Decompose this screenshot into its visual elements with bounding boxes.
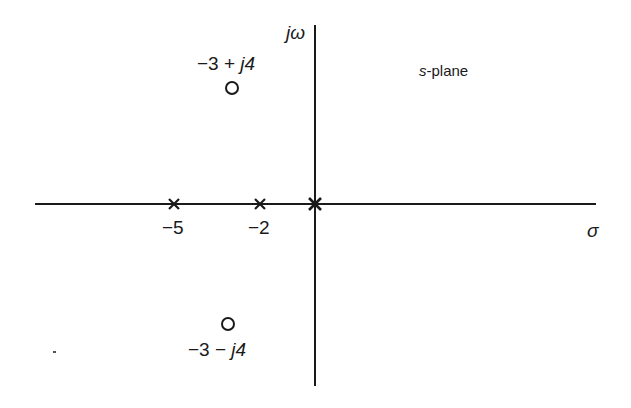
pole-zero-plot — [0, 0, 631, 408]
real-axis-label: σ — [587, 221, 598, 240]
plane-title: s-plane — [419, 63, 468, 78]
zero-label-upper: −3 + j4 — [197, 54, 255, 73]
zero-label-lower: −3 − j4 — [188, 340, 246, 359]
zero-label-lower-real: −3 − — [188, 339, 231, 360]
zero-label-lower-imag: j4 — [231, 339, 246, 360]
s-plane-diagram: jω s-plane −3 + j4 −3 − j4 −5 −2 σ — [0, 0, 631, 408]
zero-label-upper-imag: j4 — [240, 53, 255, 74]
plane-title-rest: -plane — [427, 62, 469, 79]
zero-label-upper-real: −3 + — [197, 53, 240, 74]
zero-circle-marker — [226, 82, 238, 94]
zero-circle-marker — [222, 318, 234, 330]
pole-label-minus-5: −5 — [162, 218, 184, 237]
plane-title-var: s — [419, 62, 427, 79]
speck — [53, 351, 56, 353]
imaginary-axis-label: jω — [286, 23, 305, 42]
pole-label-minus-2: −2 — [248, 218, 270, 237]
